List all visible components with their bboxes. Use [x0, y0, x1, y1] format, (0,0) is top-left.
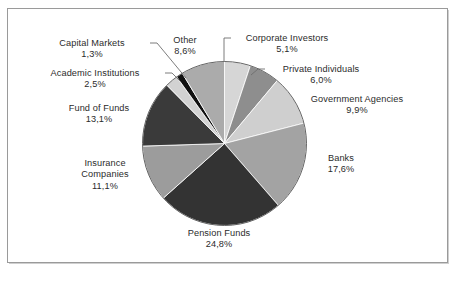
slice-label-name: Banks — [313, 153, 369, 164]
slice-label-banks: Banks 17,6% — [313, 153, 369, 176]
slice-label-name: Pension Funds — [164, 228, 274, 239]
slice-label-value: 24,8% — [164, 239, 274, 250]
slice-label-insurance-companies: Insurance Companies 11,1% — [62, 158, 148, 192]
slice-label-name-line2: Companies — [62, 169, 148, 180]
slice-label-value: 1,3% — [36, 49, 148, 60]
slice-label-value: 13,1% — [49, 114, 149, 125]
slice-label-value: 17,6% — [313, 164, 369, 175]
slice-label-fund-of-funds: Fund of Funds 13,1% — [49, 103, 149, 126]
slice-label-capital-markets: Capital Markets 1,3% — [36, 38, 148, 61]
slice-label-value: 2,5% — [26, 79, 164, 90]
slice-label-name: Corporate Investors — [226, 33, 348, 44]
slice-label-value: 8,6% — [159, 46, 211, 57]
slice-label-government-agencies: Government Agencies 9,9% — [288, 94, 426, 117]
slice-label-pension-funds: Pension Funds 24,8% — [164, 228, 274, 251]
slice-label-name: Academic Institutions — [26, 68, 164, 79]
slice-label-corporate-investors: Corporate Investors 5,1% — [226, 33, 348, 56]
slice-label-other: Other 8,6% — [159, 35, 211, 58]
slice-label-name: Capital Markets — [36, 38, 148, 49]
slice-label-value: 9,9% — [288, 105, 426, 116]
slice-label-name: Government Agencies — [288, 94, 426, 105]
chart-plot-area: Capital Markets 1,3% Other 8,6% Corporat… — [0, 0, 461, 285]
slice-label-value: 6,0% — [260, 75, 382, 86]
slice-label-value: 5,1% — [226, 44, 348, 55]
slice-label-name: Other — [159, 35, 211, 46]
slice-label-name: Fund of Funds — [49, 103, 149, 114]
pie-chart-figure: Capital Markets 1,3% Other 8,6% Corporat… — [0, 0, 461, 285]
slice-label-name-line1: Insurance — [62, 158, 148, 169]
slice-label-value: 11,1% — [62, 181, 148, 192]
slice-label-name: Private Individuals — [260, 64, 382, 75]
slice-label-private-individuals: Private Individuals 6,0% — [260, 64, 382, 87]
slice-label-academic-institutions: Academic Institutions 2,5% — [26, 68, 164, 91]
